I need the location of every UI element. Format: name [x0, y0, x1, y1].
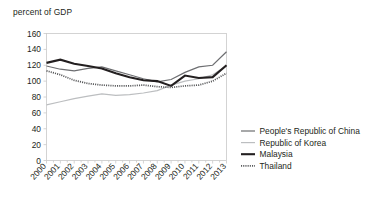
y-axis-tick-label: 60 — [32, 108, 42, 118]
y-axis-tick-label: 20 — [32, 140, 42, 150]
legend-item-label: Republic of Korea — [260, 138, 327, 148]
x-axis-tick-labels: 2000200120022003200420052006200720082009… — [28, 161, 228, 182]
legend-item-label: Thailand — [260, 161, 292, 171]
y-axis-tick-labels: 020406080100120140160 — [27, 29, 41, 166]
plot-area-border — [47, 34, 227, 161]
y-axis-tick-label: 160 — [27, 29, 41, 39]
y-axis-tick-label: 120 — [27, 60, 41, 70]
y-axis-tick-label: 80 — [32, 92, 42, 102]
plot-frame — [47, 34, 227, 161]
series-line — [47, 66, 227, 105]
chart-container: percent of GDP 020406080100120140160 200… — [0, 0, 385, 211]
y-axis-tick-label: 40 — [32, 124, 42, 134]
legend-item-label: Malaysia — [260, 149, 293, 159]
x-axis-tick-label: 2013 — [208, 161, 228, 182]
y-axis-title: percent of GDP — [13, 7, 72, 17]
series-layer — [47, 52, 227, 105]
y-axis-tick-label: 100 — [27, 76, 41, 86]
legend-item-label: People's Republic of China — [260, 126, 361, 136]
y-axis-tick-marks — [44, 34, 47, 161]
chart-legend: People's Republic of ChinaRepublic of Ko… — [241, 126, 360, 171]
series-line — [47, 60, 227, 86]
y-axis-tick-label: 140 — [27, 44, 41, 54]
line-chart: 020406080100120140160 200020012002200320… — [0, 0, 385, 211]
